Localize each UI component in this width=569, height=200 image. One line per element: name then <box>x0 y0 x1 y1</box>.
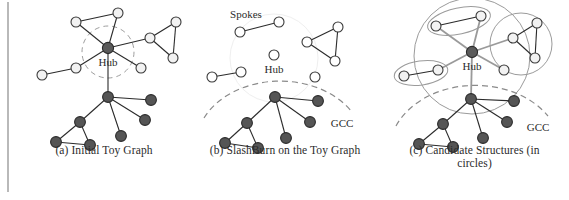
left-rule-divider <box>7 2 9 192</box>
graph-b-canvas: Spokes Hub GCC <box>190 0 380 160</box>
gcc-label-c: GCC <box>527 121 550 133</box>
candidate-circle-clique <box>490 13 552 75</box>
figure-slashburn-toy-graph: Hub (a) Initial Toy Graph <box>0 0 569 200</box>
gcc-label-b: GCC <box>331 117 354 129</box>
hub-label-b: Hub <box>265 63 284 75</box>
hub-node-b <box>269 50 279 60</box>
panel-initial-toy-graph: Hub (a) Initial Toy Graph <box>18 0 190 200</box>
hub-node-a <box>102 42 113 53</box>
nodes-dark-a <box>51 92 157 151</box>
edges-a <box>42 13 176 145</box>
hub-node-c <box>466 46 477 57</box>
spokes-label-b: Spokes <box>230 8 262 20</box>
caption-line-1: (a) Initial Toy Graph <box>18 144 190 157</box>
panel-candidate-structures: Hub GCC (c) Candidate Structures (in cir… <box>380 0 569 200</box>
caption-panel-c: (c) Candidate Structures (in circles) <box>380 144 569 170</box>
edges-b <box>212 22 338 148</box>
caption-line-2: circles) <box>380 157 569 170</box>
graph-a-canvas: Hub <box>18 0 190 160</box>
hub-label-a: Hub <box>99 56 118 68</box>
caption-panel-a: (a) Initial Toy Graph <box>18 144 190 157</box>
panel-slashburn-toy-graph: Spokes Hub GCC (b) SlashBurn on the Toy … <box>190 0 380 200</box>
caption-line-1: (b) SlashBurn on the Toy Graph <box>190 144 380 157</box>
hub-label-c: Hub <box>463 60 482 72</box>
caption-line-1: (c) Candidate Structures (in <box>380 144 569 157</box>
caption-panel-b: (b) SlashBurn on the Toy Graph <box>190 144 380 157</box>
graph-c-canvas: Hub GCC <box>380 0 569 160</box>
